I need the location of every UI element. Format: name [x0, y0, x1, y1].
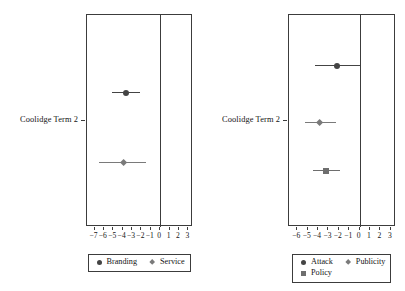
legend-diamond-icon: [343, 257, 354, 268]
x-tick-mark: [122, 227, 123, 230]
estimate-marker-diamond: [120, 159, 127, 166]
legend-label: Policy: [311, 269, 332, 277]
legend-label: Attack: [311, 258, 333, 266]
x-tick-mark: [369, 227, 370, 230]
estimate-row: [289, 65, 396, 66]
legend-square-icon: [298, 268, 309, 279]
x-tick-mark: [317, 227, 318, 230]
zero-reference-line-left: [160, 15, 161, 227]
legend-row: Branding Service: [94, 257, 185, 268]
x-tick-mark: [379, 227, 380, 230]
figure-root: Coolidge Term 2 −7−6−5−4−3−2−10123 Brand…: [0, 0, 405, 291]
legend-item-branding[interactable]: Branding: [94, 257, 137, 268]
x-tick-mark: [112, 227, 113, 230]
estimate-marker-square: [323, 168, 329, 174]
x-tick-mark: [348, 227, 349, 230]
legend-label: Service: [160, 258, 185, 266]
x-tick-mark: [187, 227, 188, 230]
x-tick-mark: [390, 227, 391, 230]
y-tick-mark-right: [283, 120, 287, 121]
x-tick-mark: [103, 227, 104, 230]
x-tick-mark: [169, 227, 170, 230]
y-category-label-left: Coolidge Term 2: [0, 115, 78, 124]
zero-reference-line-right: [360, 15, 361, 227]
estimate-marker-circle: [334, 63, 340, 69]
plot-frame-right: [288, 14, 395, 226]
x-tick-mark: [178, 227, 179, 230]
x-tick-mark: [159, 227, 160, 230]
x-tick-mark: [94, 227, 95, 230]
legend-diamond-icon: [147, 257, 158, 268]
x-tick-label: 3: [180, 231, 194, 240]
x-tick-mark: [140, 227, 141, 230]
legend-circle-icon: [298, 257, 309, 268]
plot-frame-left: [86, 14, 192, 226]
estimate-row: [87, 162, 193, 163]
y-category-label-right: Coolidge Term 2: [202, 115, 280, 124]
x-tick-mark: [307, 227, 308, 230]
x-tick-mark: [359, 227, 360, 230]
x-tick-mark: [296, 227, 297, 230]
estimate-marker-diamond: [315, 119, 322, 126]
x-tick-label: 3: [383, 231, 397, 240]
estimate-row: [87, 92, 193, 93]
panel-left: Coolidge Term 2 −7−6−5−4−3−2−10123 Brand…: [0, 0, 203, 291]
legend-label: Branding: [107, 258, 137, 266]
x-tick-mark: [338, 227, 339, 230]
y-tick-mark-left: [81, 120, 85, 121]
estimate-row: [289, 170, 396, 171]
estimate-row: [289, 122, 396, 123]
legend-label: Publicity: [356, 258, 386, 266]
legend-circle-icon: [94, 257, 105, 268]
panel-right: Coolidge Term 2 −6−5−4−3−2−10123: [202, 0, 405, 291]
legend-row: Attack Publicity: [298, 257, 385, 268]
x-tick-mark: [150, 227, 151, 230]
legend-right: Attack Publicity Policy: [292, 254, 391, 283]
legend-row: Policy: [298, 268, 385, 279]
x-tick-mark: [131, 227, 132, 230]
legend-item-service[interactable]: Service: [147, 257, 185, 268]
legend-item-attack[interactable]: Attack: [298, 257, 333, 268]
legend-item-policy[interactable]: Policy: [298, 268, 332, 279]
x-tick-mark: [327, 227, 328, 230]
estimate-marker-circle: [123, 90, 129, 96]
legend-left: Branding Service: [88, 254, 191, 272]
legend-item-publicity[interactable]: Publicity: [343, 257, 386, 268]
